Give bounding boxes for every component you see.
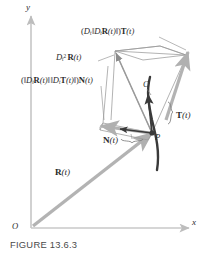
leader-normal-component — [101, 86, 104, 120]
figure-caption: FIGURE 13.6.3 — [10, 239, 77, 250]
label-position-vector: R(t) — [55, 168, 70, 177]
vector-diagram-canvas — [0, 0, 205, 259]
label-normal-vector: N(t) — [103, 136, 118, 145]
leader-normal-vector — [131, 134, 132, 139]
label-acceleration-vector: Dt2 R(t) — [56, 53, 81, 63]
label-tangent-vector: T(t) — [176, 111, 190, 120]
position-vector-arrow — [33, 133, 152, 226]
point-p-marker — [149, 130, 154, 135]
leader-acceleration — [98, 55, 114, 61]
figure-container: (Dt ‖DtR(t)‖)T(t) Dt2 R(t) (‖DtR(t)‖ ‖Dt… — [0, 0, 205, 259]
label-axis-x: x — [192, 218, 196, 227]
label-tangential-component: (Dt ‖DtR(t)‖)T(t) — [81, 27, 134, 37]
label-normal-component: (‖DtR(t)‖ ‖DtT(t)‖)N(t) — [21, 76, 93, 86]
acceleration-vector-arrow — [116, 53, 152, 133]
label-axis-y: y — [26, 3, 30, 12]
label-origin: O — [12, 222, 18, 231]
leader-tangential — [159, 37, 186, 50]
label-point-p: P — [155, 133, 160, 142]
normal-box-connector-right — [111, 51, 115, 120]
label-curve-c: C — [143, 80, 149, 89]
